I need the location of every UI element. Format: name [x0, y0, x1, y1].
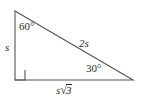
radical-expression: s√3 [56, 84, 72, 97]
angle-label-30-degrees: 30° [86, 63, 101, 74]
triangle-figure: 60° 30° s 2s s√3 [0, 0, 142, 104]
side-label-bottom-leg: s√3 [56, 84, 72, 97]
side-label-hypotenuse: 2s [79, 38, 89, 49]
right-angle-marker-icon [15, 70, 25, 80]
radicand-value: 3 [66, 84, 73, 97]
angle-label-60-degrees: 60° [19, 21, 34, 32]
side-label-left-leg: s [5, 42, 9, 53]
